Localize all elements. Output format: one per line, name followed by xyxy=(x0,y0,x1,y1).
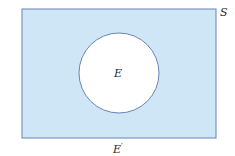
complement-prime: ′ xyxy=(121,141,123,150)
complement-label: E′ xyxy=(113,142,123,155)
sample-space-label: S xyxy=(220,7,228,18)
complement-letter: E xyxy=(113,143,121,156)
event-label: E xyxy=(114,68,122,79)
